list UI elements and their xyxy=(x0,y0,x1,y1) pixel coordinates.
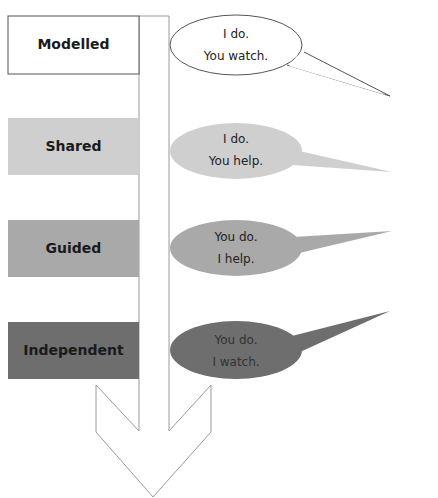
bubble-line-2: You help. xyxy=(171,150,301,172)
bubble-text-modelled: I do. You watch. xyxy=(171,23,301,67)
bubble-text-shared: I do. You help. xyxy=(171,128,301,172)
bubble-text-independent: You do. I watch. xyxy=(171,329,301,373)
stage-label-guided: Guided xyxy=(8,240,139,256)
bubble-line-2: I watch. xyxy=(171,351,301,373)
bubble-line-1: I do. xyxy=(171,128,301,150)
bubble-line-1: You do. xyxy=(171,226,301,248)
stage-label-shared: Shared xyxy=(8,138,139,154)
bubble-line-2: You watch. xyxy=(171,45,301,67)
bubble-line-2: I help. xyxy=(171,248,301,270)
bubble-text-guided: You do. I help. xyxy=(171,226,301,270)
bubble-line-1: You do. xyxy=(171,329,301,351)
bubble-line-1: I do. xyxy=(171,23,301,45)
stage-label-independent: Independent xyxy=(8,342,139,358)
stage-label-modelled: Modelled xyxy=(8,36,139,52)
